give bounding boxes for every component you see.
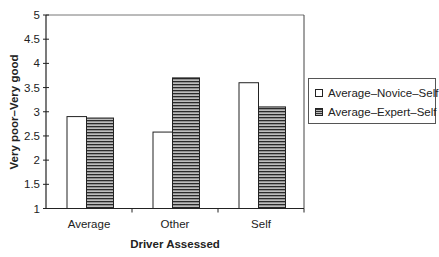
bar-chart: AverageOtherSelf11.522.533.544.55 Very p…	[0, 0, 439, 257]
legend-label: Average–Novice–Self	[328, 87, 438, 99]
bar-novice	[153, 132, 173, 208]
bar-expert	[259, 107, 286, 209]
hatched-swatch-icon	[315, 108, 323, 116]
white-swatch-icon	[315, 89, 323, 97]
legend-item-expert: Average–Expert–Self	[315, 106, 436, 118]
y-tick-label: 5	[34, 9, 40, 21]
y-tick-label: 2	[34, 154, 40, 166]
chart-legend: Average–Novice–Self Average–Expert–Self	[308, 78, 436, 124]
bar-novice	[239, 83, 259, 209]
x-axis-label: Driver Assessed	[130, 238, 220, 250]
legend-label: Average–Expert–Self	[328, 106, 436, 118]
bar-expert	[87, 118, 114, 208]
bar-expert	[173, 78, 200, 209]
y-tick-label: 3	[34, 106, 40, 118]
y-tick-label: 1.5	[24, 178, 40, 190]
y-tick-label: 3.5	[24, 82, 40, 94]
legend-item-novice: Average–Novice–Self	[315, 87, 438, 99]
x-tick-label: Average	[68, 218, 111, 230]
y-tick-label: 1	[34, 203, 40, 215]
y-tick-label: 2.5	[24, 130, 40, 142]
x-tick-label: Other	[161, 218, 190, 230]
bar-novice	[67, 117, 87, 209]
y-axis-label: Very poor–Very good	[8, 54, 20, 169]
y-tick-label: 4	[34, 57, 41, 69]
y-tick-label: 4.5	[24, 33, 40, 45]
plot-area: AverageOtherSelf11.522.533.544.55	[24, 9, 304, 230]
x-tick-label: Self	[251, 218, 272, 230]
